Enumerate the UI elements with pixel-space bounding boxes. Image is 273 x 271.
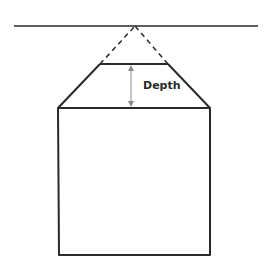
dashed-line-left xyxy=(100,26,135,64)
depth-label: Depth xyxy=(143,79,181,92)
trapezoid-left-edge xyxy=(58,64,100,108)
arrow-head-up-icon xyxy=(128,65,134,71)
perspective-diagram: Depth xyxy=(0,0,273,271)
front-rectangle xyxy=(58,108,210,255)
dashed-line-right xyxy=(135,26,168,64)
arrow-head-down-icon xyxy=(128,101,134,107)
depth-arrow xyxy=(128,65,134,107)
